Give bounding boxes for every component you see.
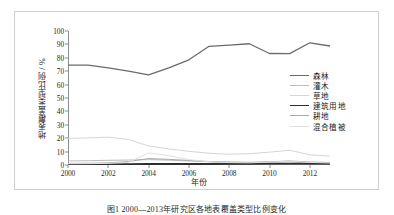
legend-item-0[interactable]: 森林 <box>290 70 376 80</box>
figure: 地表覆盖类型比例 / % 0102030405060708090100 2000… <box>0 0 394 215</box>
legend-swatch-icon-3 <box>290 105 309 106</box>
y-tick-label-30: 30 <box>57 120 64 129</box>
y-tick-label-90: 90 <box>57 40 64 49</box>
legend-label-5: 混合植被 <box>313 121 346 132</box>
y-tick-label-70: 70 <box>57 67 64 76</box>
legend-item-2[interactable]: 草地 <box>290 90 376 100</box>
legend-swatch-icon-5 <box>290 126 309 127</box>
y-axis-label-text: 地表覆盖类型比例 / % <box>37 58 48 139</box>
x-tick-mark-2010 <box>269 165 270 168</box>
y-tick-label-60: 60 <box>57 80 64 89</box>
x-tick-mark-2008 <box>229 165 230 168</box>
x-tick-mark-2012 <box>309 165 310 168</box>
y-tick-label-10: 10 <box>57 147 64 156</box>
legend: 森林灌木草地建筑用地耕地混合植被 <box>290 70 376 131</box>
figure-caption: 图1 2000—2013年研究区各地表覆盖类型比例变化 <box>14 203 379 215</box>
y-tick-label-80: 80 <box>57 53 64 62</box>
legend-swatch-icon-2 <box>290 95 309 96</box>
legend-item-3[interactable]: 建筑用地 <box>290 101 376 111</box>
legend-item-4[interactable]: 耕地 <box>290 111 376 121</box>
x-tick-mark-2006 <box>188 165 189 168</box>
y-tick-label-40: 40 <box>57 107 64 116</box>
x-tick-mark-2002 <box>108 165 109 168</box>
legend-swatch-icon-1 <box>290 85 309 86</box>
series-line-5 <box>68 153 330 164</box>
y-axis-label: 地表覆盖类型比例 / % <box>36 31 48 165</box>
legend-swatch-icon-4 <box>290 115 309 116</box>
y-tick-label-100: 100 <box>53 27 64 36</box>
x-axis-label: 年份 <box>68 176 330 187</box>
legend-item-5[interactable]: 混合植被 <box>290 121 376 131</box>
x-tick-mark-2000 <box>68 165 69 168</box>
x-tick-mark-2004 <box>148 165 149 168</box>
legend-item-1[interactable]: 灌木 <box>290 80 376 90</box>
y-tick-label-20: 20 <box>57 134 64 143</box>
legend-swatch-icon-0 <box>290 75 309 76</box>
series-line-2 <box>68 137 330 156</box>
y-tick-label-50: 50 <box>57 94 64 103</box>
